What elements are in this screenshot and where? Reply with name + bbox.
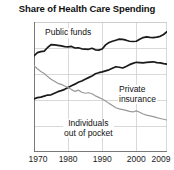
series-label-private-insurance: Private insurance xyxy=(118,85,157,104)
chart-container: Share of Health Care Spending 50%4030201… xyxy=(0,0,174,170)
series-label-public-funds: Public funds xyxy=(44,28,92,38)
series-label-private-insurance-line2: insurance xyxy=(119,95,156,105)
x-axis-tick-2000: 2000 xyxy=(127,154,146,164)
y-axis-tick-labels: 50%403020100 xyxy=(0,0,34,170)
x-axis-tick-1970: 1970 xyxy=(29,154,48,164)
x-axis-tick-labels: 19701980199020002009 xyxy=(0,154,174,170)
series-label-out-of-pocket: Individuals out of pocket xyxy=(63,119,114,138)
series-label-public-funds-text: Public funds xyxy=(45,27,91,37)
x-axis-tick-1980: 1980 xyxy=(59,154,78,164)
x-axis-tick-2009: 2009 xyxy=(152,154,171,164)
x-axis-tick-1990: 1990 xyxy=(93,154,112,164)
series-label-out-of-pocket-line2: out of pocket xyxy=(64,129,113,139)
